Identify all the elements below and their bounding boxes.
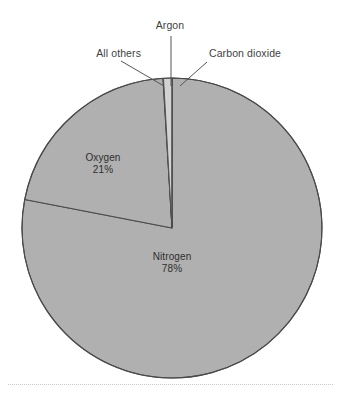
slice-label-argon-text: Argon [156, 19, 185, 31]
footer-dotted-rule [8, 384, 333, 386]
slice-label-carbon-dioxide-text: Carbon dioxide [209, 47, 281, 59]
slice-label-nitrogen-percent: 78% [153, 263, 192, 275]
slice-label-oxygen-name: Oxygen [85, 152, 120, 163]
slice-label-oxygen: Oxygen 21% [85, 152, 120, 175]
slice-label-oxygen-percent: 21% [85, 164, 120, 176]
slice-label-nitrogen-name: Nitrogen [153, 251, 192, 262]
slice-label-all-others: All others [96, 47, 141, 59]
slice-label-all-others-text: All others [96, 47, 141, 59]
slice-label-nitrogen: Nitrogen 78% [153, 251, 192, 274]
pie-chart-canvas [0, 0, 341, 401]
slice-label-carbon-dioxide: Carbon dioxide [209, 47, 281, 59]
pie-chart-figure: Argon All others Carbon dioxide Oxygen 2… [0, 0, 341, 401]
slice-label-argon: Argon [156, 19, 185, 31]
